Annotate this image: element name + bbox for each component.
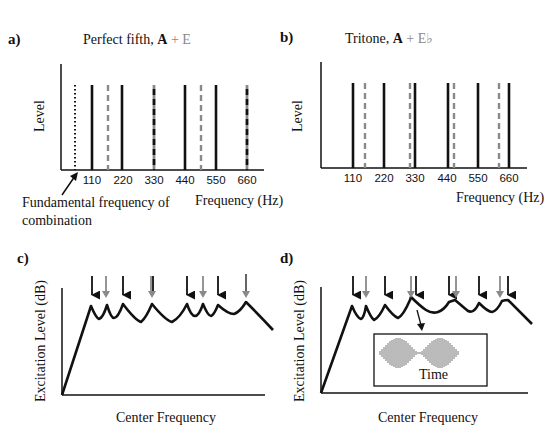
- panel-a-tick: 110: [83, 174, 101, 186]
- note-a: A: [393, 31, 403, 46]
- excitation-curve-c: [62, 302, 273, 395]
- panel-b-tick: 110: [344, 172, 362, 184]
- panel-b-plot: [321, 62, 527, 168]
- title-prefix: Perfect fifth,: [83, 32, 157, 47]
- panel-b-tick: 330: [405, 172, 424, 184]
- panel-a-tick: 550: [206, 174, 225, 186]
- panel-a-xlabel: Frequency (Hz): [195, 193, 283, 209]
- panel-a-tick: 660: [237, 174, 256, 186]
- fundamental-annotation-line2: combination: [22, 213, 92, 229]
- panel-a-ylabel: Level: [32, 96, 48, 136]
- panel-b-xlabel: Frequency (Hz): [456, 190, 544, 206]
- panel-c-label: c): [17, 250, 29, 267]
- panel-a-tick: 440: [175, 174, 194, 186]
- panel-d-xlabel: Center Frequency: [378, 410, 478, 426]
- panel-b-tick: 440: [437, 172, 456, 184]
- panel-c-xlabel: Center Frequency: [116, 410, 216, 426]
- inset-pointer-arrow-icon: [417, 310, 421, 325]
- note-eb: E♭: [418, 31, 433, 46]
- plus: +: [167, 32, 182, 47]
- panel-b-tick: 660: [499, 172, 518, 184]
- fundamental-arrow-icon: [62, 176, 75, 195]
- panel-a-label: a): [8, 31, 21, 48]
- panel-a-tick: 330: [144, 174, 163, 186]
- panel-a-tick: 220: [113, 174, 132, 186]
- panel-c-plot: [62, 274, 273, 395]
- panel-b-title: Tritone, A + E♭: [345, 30, 433, 47]
- panel-a-title: Perfect fifth, A + E: [83, 32, 191, 48]
- note-e: E: [182, 32, 191, 47]
- panel-b-label: b): [280, 29, 293, 46]
- panel-d-ylabel: Excitation Level (dB): [292, 271, 308, 411]
- fundamental-annotation-line1: Fundamental frequency of: [22, 195, 170, 211]
- note-a: A: [157, 32, 167, 47]
- inset-time-label: Time: [419, 367, 448, 383]
- panel-b-ylabel: Level: [290, 96, 306, 136]
- panel-b-tick: 220: [374, 172, 393, 184]
- plus: +: [403, 31, 418, 46]
- panel-d-label: d): [280, 250, 293, 267]
- panel-c-ylabel: Excitation Level (dB): [33, 271, 49, 411]
- title-prefix: Tritone,: [345, 31, 393, 46]
- panel-b-tick: 550: [468, 172, 487, 184]
